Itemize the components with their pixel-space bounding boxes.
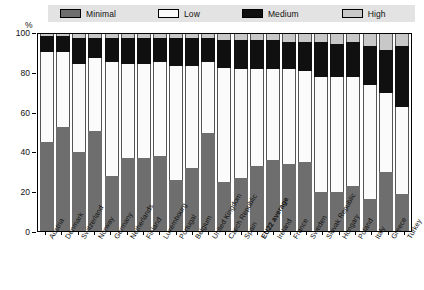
bar-segment-low xyxy=(185,66,199,168)
x-axis-tick-mark xyxy=(159,232,160,235)
bar-segment-low xyxy=(234,69,248,177)
y-axis-tick-label: 40 xyxy=(21,147,30,157)
bar-segment-low xyxy=(314,77,328,191)
bar-segment-medium xyxy=(185,38,199,66)
bar-segment-medium xyxy=(363,46,377,85)
bar-segment-medium xyxy=(137,38,151,64)
legend-label: Low xyxy=(184,9,200,19)
bar-segment-low xyxy=(266,69,280,160)
legend-swatch-high-icon xyxy=(342,9,363,18)
y-axis-tick-label: 60 xyxy=(21,108,30,118)
bar-column xyxy=(395,34,409,231)
bar-segment-low xyxy=(88,58,102,131)
bar-segment-medium xyxy=(266,40,280,70)
bar-column xyxy=(201,34,215,231)
x-axis-tick-mark xyxy=(257,232,258,235)
legend-label: Minimal xyxy=(86,9,116,19)
bar-series-container xyxy=(38,34,411,231)
x-axis-tick-mark xyxy=(208,232,209,235)
y-axis-ticks: 020406080100 xyxy=(0,33,36,232)
bar-segment-high xyxy=(314,34,328,42)
bar-segment-low xyxy=(201,62,215,133)
x-axis-tick-mark xyxy=(273,232,274,235)
bar-column xyxy=(185,34,199,231)
chart-legend: MinimalLowMediumHigh xyxy=(48,5,415,22)
bar-segment-low xyxy=(105,62,119,176)
plot-area xyxy=(37,33,412,232)
bar-column xyxy=(314,34,328,231)
bar-segment-high xyxy=(379,34,393,50)
bar-segment-minimal xyxy=(40,142,54,231)
x-axis-tick-mark xyxy=(94,232,95,235)
y-axis-tick-label: 20 xyxy=(21,187,30,197)
bar-segment-medium xyxy=(40,36,54,52)
bar-segment-low xyxy=(153,62,167,157)
legend-entry-high: High xyxy=(342,9,386,19)
y-axis-tick-label: 80 xyxy=(21,68,30,78)
bar-column xyxy=(105,34,119,231)
bar-segment-medium xyxy=(330,44,344,77)
bar-segment-medium xyxy=(282,42,296,70)
bar-column xyxy=(379,34,393,231)
y-axis-tick-mark xyxy=(32,192,36,193)
bar-segment-high xyxy=(330,34,344,44)
legend-label: High xyxy=(368,9,386,19)
legend-label: Medium xyxy=(268,9,299,19)
y-axis-tick-label: 0 xyxy=(25,227,30,237)
bar-segment-high xyxy=(363,34,377,46)
bar-column xyxy=(137,34,151,231)
x-axis-tick-mark xyxy=(322,232,323,235)
bar-segment-minimal xyxy=(379,172,393,231)
bar-segment-medium xyxy=(153,38,167,62)
bar-segment-low xyxy=(379,93,393,172)
bar-column xyxy=(88,34,102,231)
bar-column xyxy=(121,34,135,231)
bar-segment-minimal xyxy=(56,127,70,231)
x-axis-tick-mark xyxy=(45,232,46,235)
bar-segment-low xyxy=(40,52,54,143)
y-axis-tick-mark xyxy=(32,33,36,34)
bar-segment-low xyxy=(56,52,70,127)
bar-segment-low xyxy=(217,68,231,182)
x-axis-labels: AustriaDenmarkSwitzerlandNorwayGermanyNe… xyxy=(37,233,412,290)
bar-segment-medium xyxy=(298,42,312,72)
bar-segment-medium xyxy=(234,40,248,70)
bar-column xyxy=(153,34,167,231)
bar-segment-low xyxy=(72,64,86,153)
bar-segment-low xyxy=(137,64,151,159)
bar-segment-medium xyxy=(379,50,393,93)
bar-column xyxy=(298,34,312,231)
bar-segment-medium xyxy=(346,42,360,77)
bar-segment-low xyxy=(298,71,312,162)
bar-segment-medium xyxy=(88,38,102,58)
bar-column xyxy=(72,34,86,231)
x-axis-tick-mark xyxy=(110,232,111,235)
bar-column xyxy=(40,34,54,231)
bar-segment-low xyxy=(121,64,135,159)
bar-segment-medium xyxy=(169,38,183,66)
x-axis-tick-mark xyxy=(306,232,307,235)
bar-segment-medium xyxy=(250,40,264,70)
y-axis-tick-mark xyxy=(32,73,36,74)
bar-segment-low xyxy=(282,69,296,164)
legend-swatch-medium-icon xyxy=(242,9,263,18)
y-axis-tick-label: 100 xyxy=(16,28,30,38)
bar-segment-medium xyxy=(105,38,119,62)
bar-segment-medium xyxy=(201,38,215,62)
bar-segment-low xyxy=(395,107,409,194)
bar-segment-medium xyxy=(395,46,409,107)
y-axis-tick-mark xyxy=(32,152,36,153)
x-axis-tick-mark xyxy=(371,232,372,235)
bar-segment-medium xyxy=(56,36,70,52)
y-axis-tick-mark xyxy=(32,232,36,233)
bar-segment-high xyxy=(346,34,360,42)
y-axis-tick-mark xyxy=(32,113,36,114)
bar-segment-low xyxy=(330,77,344,191)
bar-segment-medium xyxy=(217,40,231,68)
legend-swatch-minimal-icon xyxy=(60,9,81,18)
legend-entry-medium: Medium xyxy=(242,9,299,19)
bar-segment-low xyxy=(346,77,360,185)
bar-segment-high xyxy=(298,34,312,42)
bar-segment-low xyxy=(250,69,264,166)
bar-segment-high xyxy=(282,34,296,42)
